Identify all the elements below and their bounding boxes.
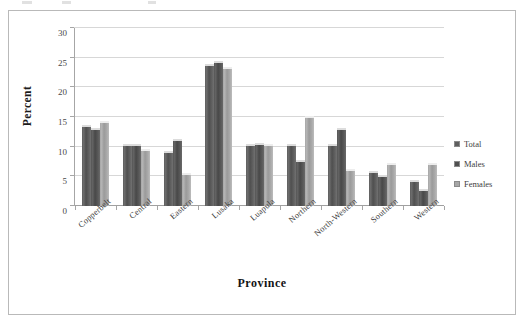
x-category-label: Copperbelt bbox=[76, 196, 113, 230]
bar-highlight-cap bbox=[255, 143, 264, 145]
legend-label: Males bbox=[464, 159, 485, 169]
bar-highlight-cap bbox=[264, 144, 273, 146]
bar[interactable] bbox=[100, 121, 109, 206]
bar-highlight-cap bbox=[296, 160, 305, 162]
chart-legend: TotalMalesFemales bbox=[454, 139, 514, 199]
bar[interactable] bbox=[305, 116, 314, 206]
x-category-label: Eastern bbox=[168, 196, 195, 221]
bar-group bbox=[75, 28, 116, 206]
bar-highlight-cap bbox=[378, 175, 387, 177]
bar-group bbox=[362, 28, 403, 206]
legend-label: Total bbox=[464, 139, 481, 149]
bar-highlight-cap bbox=[337, 128, 346, 130]
y-tick-mark bbox=[70, 27, 74, 28]
legend-item[interactable]: Total bbox=[454, 139, 514, 149]
bar[interactable] bbox=[223, 67, 232, 206]
x-category-label: North-Western bbox=[312, 196, 358, 238]
x-category-label: Southern bbox=[369, 196, 400, 225]
bar-group bbox=[280, 28, 321, 206]
y-tick-mark bbox=[70, 146, 74, 147]
y-tick-mark bbox=[70, 86, 74, 87]
bar-group bbox=[403, 28, 444, 206]
plot-area: 051015202530 bbox=[74, 28, 444, 206]
bar-highlight-cap bbox=[91, 128, 100, 130]
bar-highlight-cap bbox=[132, 144, 141, 146]
bar-highlight-cap bbox=[387, 163, 396, 165]
bar-highlight-cap bbox=[419, 189, 428, 191]
bar-highlight-cap bbox=[205, 64, 214, 66]
x-category-label: Northern bbox=[287, 196, 318, 225]
bar[interactable] bbox=[214, 61, 223, 206]
y-axis-title: Percent bbox=[21, 86, 33, 126]
y-tick-mark bbox=[70, 116, 74, 117]
bar-highlight-cap bbox=[246, 144, 255, 146]
x-category-label: Western bbox=[412, 196, 440, 223]
legend-item[interactable]: Females bbox=[454, 179, 514, 189]
bar-highlight-cap bbox=[428, 163, 437, 165]
legend-swatch-icon bbox=[454, 141, 460, 147]
bar-highlight-cap bbox=[328, 144, 337, 146]
chart-frame: Percent 051015202530 CopperbeltCentralEa… bbox=[8, 10, 516, 315]
bar-highlight-cap bbox=[82, 125, 91, 127]
y-tick-mark bbox=[70, 57, 74, 58]
bar-highlight-cap bbox=[410, 180, 419, 182]
bar-highlight-cap bbox=[287, 144, 296, 146]
bar[interactable] bbox=[91, 128, 100, 206]
x-axis-title: Province bbox=[9, 276, 515, 291]
legend-swatch-icon bbox=[454, 161, 460, 167]
x-category-label: Lusaka bbox=[210, 196, 236, 220]
legend-label: Females bbox=[464, 179, 492, 189]
x-axis-category-labels: CopperbeltCentralEasternLusakaLuapulaNor… bbox=[74, 196, 446, 258]
bar-group bbox=[116, 28, 157, 206]
bar-highlight-cap bbox=[223, 67, 232, 69]
bar-group bbox=[321, 28, 362, 206]
bar-highlight-cap bbox=[173, 139, 182, 141]
legend-item[interactable]: Males bbox=[454, 159, 514, 169]
bars-layer bbox=[75, 28, 444, 206]
bar-group bbox=[198, 28, 239, 206]
x-category-label: Central bbox=[127, 196, 154, 221]
bar-highlight-cap bbox=[123, 144, 132, 146]
bar[interactable] bbox=[82, 125, 91, 206]
x-category-label: Luapula bbox=[248, 196, 277, 223]
bar-highlight-cap bbox=[369, 171, 378, 173]
y-tick-mark bbox=[70, 175, 74, 176]
bar[interactable] bbox=[205, 64, 214, 206]
legend-swatch-icon bbox=[454, 181, 460, 187]
bar-highlight-cap bbox=[305, 116, 314, 118]
scan-artifact-strip bbox=[0, 0, 529, 9]
bar-highlight-cap bbox=[100, 121, 109, 123]
bar-highlight-cap bbox=[182, 173, 191, 175]
bar-highlight-cap bbox=[346, 169, 355, 171]
bar[interactable] bbox=[337, 128, 346, 206]
bar-highlight-cap bbox=[141, 149, 150, 151]
bar-group bbox=[157, 28, 198, 206]
bar-highlight-cap bbox=[214, 61, 223, 63]
bar-group bbox=[239, 28, 280, 206]
bar-highlight-cap bbox=[164, 151, 173, 153]
